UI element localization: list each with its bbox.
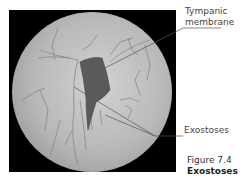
figure-title: Exostoses: [187, 166, 238, 177]
figure-number: Figure 7.4: [187, 155, 238, 166]
label-line-2: membrane: [185, 17, 234, 28]
figure-caption: Figure 7.4 Exostoses: [187, 155, 238, 177]
tympanic-membrane-label: Tympanic membrane: [185, 6, 234, 28]
label-line-1: Tympanic: [185, 6, 234, 17]
exostoses-label: Exostoses: [184, 125, 229, 136]
